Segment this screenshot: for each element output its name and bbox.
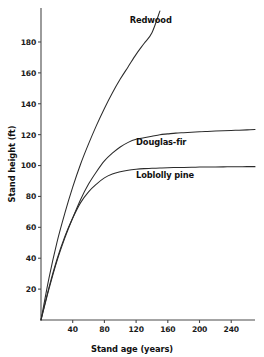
x-tick-label: 240 <box>224 325 239 334</box>
axes <box>41 8 255 320</box>
x-tick-label: 40 <box>68 325 78 334</box>
x-tick-label: 80 <box>99 325 109 334</box>
series-label-douglas-fir: Douglas-fir <box>136 137 187 147</box>
y-tick-label: 40 <box>26 254 36 263</box>
x-tick-label: 160 <box>160 325 175 334</box>
series-label-redwood: Redwood <box>130 15 172 25</box>
series-label-loblolly-pine: Loblolly pine <box>136 170 194 180</box>
x-tick-label: 200 <box>192 325 207 334</box>
y-tick-label: 120 <box>21 131 36 140</box>
tick-labels: 204060801001201401601804080120160200240 <box>21 38 239 334</box>
y-tick-label: 60 <box>26 223 36 232</box>
tick-marks <box>38 42 231 323</box>
y-tick-label: 160 <box>21 69 36 78</box>
y-tick-label: 180 <box>21 38 36 47</box>
series-labels: RedwoodDouglas-firLoblolly pine <box>130 15 195 179</box>
chart-container: 204060801001201401601804080120160200240 … <box>0 0 264 357</box>
y-tick-label: 80 <box>26 192 36 201</box>
y-axis-title: Stand height (ft) <box>7 125 17 202</box>
series-line-loblolly-pine <box>41 167 255 320</box>
series-line-douglas-fir <box>41 130 255 320</box>
y-tick-label: 20 <box>26 285 36 294</box>
x-tick-label: 120 <box>128 325 143 334</box>
y-tick-label: 140 <box>21 100 36 109</box>
line-chart: 204060801001201401601804080120160200240 … <box>0 0 264 357</box>
y-tick-label: 100 <box>21 161 36 170</box>
series-curves <box>41 11 255 320</box>
x-axis-title: Stand age (years) <box>91 344 173 354</box>
